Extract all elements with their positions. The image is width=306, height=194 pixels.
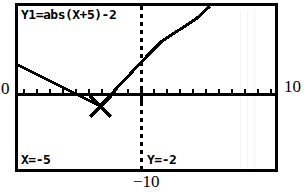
scan-artifact (254, 10, 255, 172)
x-value-readout: X=-5 (20, 153, 51, 166)
graph-plot-area (18, 6, 275, 169)
bottom-axis-label-negative-ten: −10 (133, 173, 160, 190)
calculator-screen: Y1=abs(X+5)-2 X=-5 Y=-2 (15, 3, 278, 172)
y-value-readout: Y=-2 (146, 153, 177, 166)
cursor-crosshair-marker (90, 96, 111, 117)
left-axis-label-zero: 0 (1, 80, 10, 97)
graph-svg (18, 6, 275, 169)
scan-artifact (240, 10, 241, 172)
right-axis-label-ten: 10 (284, 78, 301, 95)
scan-artifact (247, 10, 248, 172)
function-expression-label: Y1=abs(X+5)-2 (20, 8, 117, 21)
